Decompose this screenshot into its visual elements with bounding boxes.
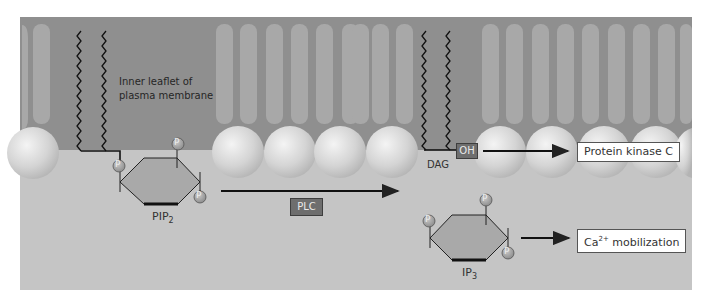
pip2-phosphate-label: P <box>196 190 201 200</box>
calcium-mobilization-box: Ca2+ mobilization <box>577 229 686 253</box>
ip3-label: IP3 <box>462 266 477 281</box>
plc-signaling-diagram: P P P P P P Inner leaflet of plasma memb… <box>0 0 709 302</box>
ip3-phosphate-label: P <box>482 193 487 203</box>
ip3-phosphate-label: P <box>425 214 430 224</box>
plc-enzyme-badge: PLC <box>290 198 323 216</box>
pip2-label: PIP2 <box>152 210 174 225</box>
dag-hydroxyl-badge: OH <box>456 143 478 159</box>
pip2-phosphate-label: P <box>174 137 179 147</box>
protein-kinase-c-box: Protein kinase C <box>577 142 680 162</box>
membrane-label-line1: Inner leaflet of <box>119 75 213 89</box>
dag-label: DAG <box>427 159 449 170</box>
ip3-phosphate-label: P <box>504 246 509 256</box>
membrane-label: Inner leaflet of plasma membrane <box>119 75 213 103</box>
membrane-label-line2: plasma membrane <box>119 89 213 103</box>
pip2-phosphate-label: P <box>115 159 120 169</box>
